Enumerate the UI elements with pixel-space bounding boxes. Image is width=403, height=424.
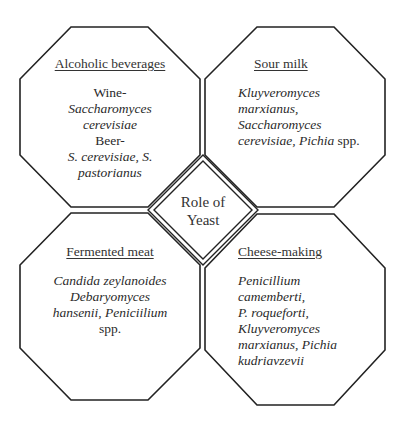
center-label-line2: Yeast: [163, 211, 243, 229]
species-name: S. cerevisiae, S.: [68, 149, 153, 164]
quadrant-title: Sour milk: [254, 56, 388, 72]
species-name: cerevisiae, Pichia: [238, 133, 334, 148]
species-name: Candida zeylanoides: [54, 273, 167, 288]
quadrant-fermented-meat: Fermented meat Candida zeylanoides Debar…: [30, 244, 190, 337]
species-name: kudriavzevii: [238, 353, 304, 368]
quadrant-alcoholic-beverages: Alcoholic beverages Wine- Saccharomyces …: [30, 56, 190, 181]
quadrant-cheese-making: Cheese-making Penicillium camemberti, P.…: [238, 244, 388, 369]
species-name: Kluyveromyces: [238, 85, 320, 100]
species-name: cerevisiae: [83, 117, 137, 132]
spp-suffix: spp.: [334, 133, 360, 148]
species-name: Saccharomyces: [68, 101, 151, 116]
species-name: pastorianus: [78, 165, 142, 180]
species-name: marxianus, Pichia: [238, 337, 337, 352]
species-name: Penicillium: [238, 273, 300, 288]
species-name: Debaryomyces: [70, 289, 150, 304]
species-name: Saccharomyces: [238, 117, 321, 132]
species-name: camemberti,: [238, 289, 305, 304]
text-line: spp.: [30, 321, 190, 337]
species-name: P. roqueforti,: [238, 305, 309, 320]
quadrant-title: Fermented meat: [30, 244, 190, 260]
quadrant-title: Cheese-making: [238, 244, 388, 260]
species-name: Kluyveromyces: [238, 321, 320, 336]
center-label-line1: Role of: [163, 193, 243, 211]
quadrant-sour-milk: Sour milk Kluyveromyces marxianus, Sacch…: [238, 56, 388, 149]
text-line: Beer-: [30, 133, 190, 149]
species-name: marxianus,: [238, 101, 298, 116]
center-label: Role of Yeast: [163, 193, 243, 229]
species-name: hansenii, Peniciilium: [53, 305, 168, 320]
quadrant-title: Alcoholic beverages: [30, 56, 190, 72]
text-line: Wine-: [30, 85, 190, 101]
